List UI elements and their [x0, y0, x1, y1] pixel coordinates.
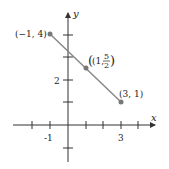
y-tick-label-2: 2	[54, 76, 60, 86]
y-axis-label: y	[72, 8, 79, 19]
label-start: (−1, 4)	[15, 29, 47, 39]
x-axis-label: x	[151, 112, 157, 123]
coordinate-plane: x y -1 3 2 (−1, 4) (3, 1) ( (1, 5 2 )	[0, 0, 169, 169]
point-end	[119, 100, 124, 105]
midpoint-frac-num: 5	[104, 52, 109, 61]
svg-text:): )	[110, 53, 115, 68]
x-tick-label-neg1: -1	[44, 133, 53, 143]
point-start	[48, 32, 53, 37]
midpoint-frac-den: 2	[104, 61, 109, 70]
x-tick-label-3: 3	[118, 133, 124, 143]
label-midpoint: ( (1, 5 2 )	[88, 52, 115, 70]
svg-text:(1,: (1,	[92, 56, 104, 66]
label-end: (3, 1)	[119, 89, 143, 99]
